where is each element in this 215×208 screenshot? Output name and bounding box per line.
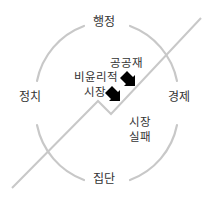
- arrow-down-right-icon: [105, 86, 120, 101]
- label-market-failure-line2: 실패: [129, 130, 151, 144]
- label-economy: 경제: [168, 90, 190, 104]
- label-market-failure-line1: 시장: [129, 115, 151, 129]
- label-unethical-market-line1: 비윤리적: [74, 70, 118, 84]
- circle-arc-top-right: [130, 26, 177, 81]
- arrow-down-right-icon: [120, 71, 135, 86]
- label-administration: 행정: [93, 15, 115, 29]
- label-politics: 정치: [19, 90, 41, 104]
- label-unethical-market-line2: 시장: [84, 85, 106, 99]
- label-group: 집단: [93, 172, 115, 186]
- label-public-goods: 공공재: [110, 56, 143, 70]
- circle-arc-bottom-left: [37, 125, 84, 180]
